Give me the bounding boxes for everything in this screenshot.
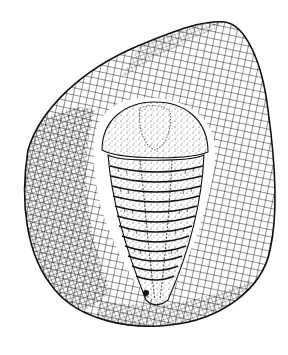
illustration-canvas — [0, 0, 288, 355]
trilobite-fossil-drawing — [0, 0, 288, 355]
